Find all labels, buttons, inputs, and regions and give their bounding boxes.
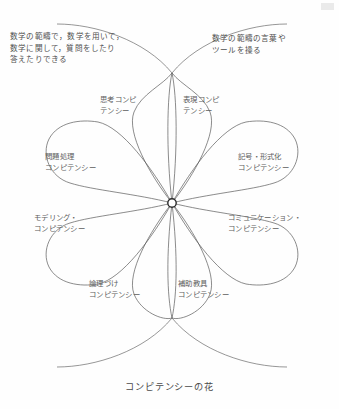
petal-label-line: テンシー [100,106,137,117]
petal-label-modelling: モデリング・ コンピテンシー [34,213,85,234]
petal-label-representation: 表現コンピ テンシー [183,95,220,116]
annotation-line: 数学の範疇で，数学を用いて， [10,31,124,43]
petal-label-problem-handling: 問題処理 コンピテンシー [45,152,96,173]
figure-caption: コンピテンシーの花 [0,379,339,393]
petal-label-aids-and-tools: 補助教具 コンピテンシー [178,279,229,300]
petal-label-line: 思考コンピ [100,95,137,106]
petal-label-line: モデリング・ [34,213,85,224]
petal-label-line: コンピテンシー [228,224,301,235]
competency-flower-figure: 数学の範疇で，数学を用いて， 数学に関して，質問をしたり 答えたりできる 数学の… [0,0,339,409]
petal-label-line: コンピテンシー [34,224,85,235]
petal-label-communication: コミュニケーション・ コンピテンシー [228,213,301,234]
petal-label-reasoning: 論理づけ コンピテンシー [89,279,140,300]
petal-label-line: 補助教具 [178,279,229,290]
petal-label-thinking: 思考コンピ テンシー [100,95,137,116]
petal-label-line: コミュニケーション・ [228,213,301,224]
annotation-handle-mathematical-language-and-tools: 数学の範疇の言葉や ツールを操る [212,33,286,56]
petal-label-line: テンシー [183,106,220,117]
annotation-line: ツールを操る [212,45,286,57]
outer-arc-bottom-right [172,318,287,367]
petal-label-symbol-formalism: 記号・形式化 コンピテンシー [238,152,289,173]
petal-label-line: 表現コンピ [183,95,220,106]
center-node [168,199,176,207]
petal-label-line: コンピテンシー [45,163,96,174]
annotation-line: 数学の範疇の言葉や [212,33,286,45]
petal-label-line: コンピテンシー [89,290,140,301]
petal-label-line: コンピテンシー [178,290,229,301]
petal-label-line: コンピテンシー [238,163,289,174]
petal-label-line: 論理づけ [89,279,140,290]
outer-arc-bottom-left [57,318,172,367]
annotation-line: 数学に関して，質問をしたり [10,43,124,55]
petal-label-line: 問題処理 [45,152,96,163]
annotation-line: 答えたりできる [10,54,124,66]
annotation-ask-and-answer-in-mathematics: 数学の範疇で，数学を用いて， 数学に関して，質問をしたり 答えたりできる [10,31,124,66]
petal-label-line: 記号・形式化 [238,152,289,163]
